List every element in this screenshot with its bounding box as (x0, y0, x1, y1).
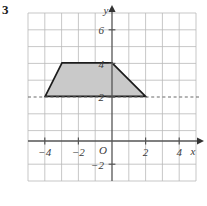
x-axis-arrow-icon (197, 137, 204, 144)
y-tick-label-4: 4 (99, 58, 105, 70)
y-tick-label-minus2: −2 (91, 159, 104, 171)
y-tick-label-6: 6 (99, 24, 105, 36)
x-axis-label: x (190, 145, 196, 157)
figure-container: 3 (0, 0, 207, 206)
x-tick-label-minus2: −2 (72, 146, 85, 158)
origin-label: O (99, 144, 107, 156)
y-tick-label-2: 2 (99, 91, 105, 103)
x-tick-label-2: 2 (143, 146, 149, 158)
x-tick-label-minus4: −4 (38, 146, 51, 158)
y-axis-arrow-icon (108, 5, 115, 12)
coordinate-grid-graph: −4 −2 2 4 6 4 2 −2 O x y (0, 0, 207, 206)
x-tick-label-4: 4 (176, 146, 182, 158)
y-axis-label: y (103, 4, 109, 16)
